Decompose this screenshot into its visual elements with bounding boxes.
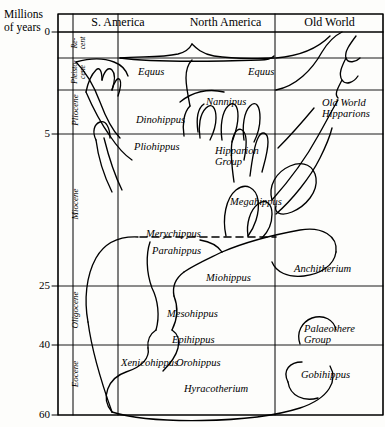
lineage-s-america-base <box>88 322 112 412</box>
lineage-equus-na-spread <box>120 44 192 58</box>
lineage-anchitherium-loop <box>272 252 336 276</box>
lineage-equus-ow-zig3 <box>336 80 342 98</box>
lineage-sa-tail2 <box>104 138 122 190</box>
lineage-nannipus-lobe2 <box>221 104 238 142</box>
lineage-megahippus-lobe2 <box>247 202 272 238</box>
lineage-equus-ow-b <box>276 32 342 90</box>
lineage-miohippus-fan <box>184 252 222 272</box>
phylogeny-chart: Millions of years 05254060 Re-centPleist… <box>0 0 385 427</box>
lineage-pliohippus <box>183 106 190 136</box>
lineage-gobihippus <box>286 362 302 382</box>
lineage-sa-descend2 <box>86 92 132 160</box>
lineage-sa-zig3 <box>112 79 121 96</box>
lineage-gobihippus-tail <box>288 382 318 399</box>
chart-canvas <box>0 0 385 427</box>
lineage-palaeothere-group <box>299 317 336 344</box>
lineage-ow-hipparions-loop <box>271 164 316 214</box>
lineage-hyracotherium-root <box>112 366 333 421</box>
lineage-sa-tail1 <box>96 140 112 192</box>
lineage-xenicohippus <box>106 348 148 412</box>
lineage-nannipus-leader <box>180 90 224 102</box>
lineage-s-america-descent <box>86 237 138 322</box>
lineage-mesohippus-miohippus <box>173 272 184 296</box>
lineage-megahippus-lobe1 <box>224 186 258 236</box>
lineage-equus-trunk-na <box>186 60 192 106</box>
lineage-ow-hipparions-c <box>278 108 314 148</box>
lineage-orohippus <box>163 330 179 371</box>
lineage-ow-hipparions-a <box>272 100 338 200</box>
lineage-parahippus <box>200 240 222 252</box>
lineage-equus-ow-a <box>276 36 330 58</box>
chart-frame <box>58 14 383 415</box>
lineage-equus-na-right <box>192 44 274 59</box>
lineage-hipparion-lobe2 <box>250 133 268 176</box>
lineage-nannipus-lobe1 <box>199 106 216 140</box>
lineage-epihippus <box>172 296 177 330</box>
lineage-anchitherium <box>222 229 336 252</box>
